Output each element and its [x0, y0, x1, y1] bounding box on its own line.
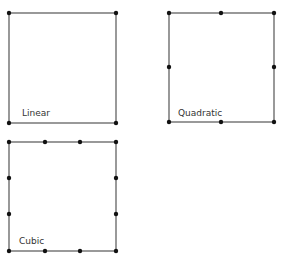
- node-dot: [43, 140, 47, 144]
- node-dot: [7, 140, 11, 144]
- node-dot: [114, 212, 118, 216]
- cubic-label: Cubic: [19, 236, 44, 246]
- node-dot: [167, 120, 171, 124]
- node-dot: [7, 11, 11, 15]
- node-dot: [7, 121, 11, 125]
- node-dot: [272, 11, 276, 15]
- element-boundary: [169, 13, 274, 122]
- node-dot: [114, 11, 118, 15]
- node-dot: [78, 249, 82, 253]
- quadratic-label: Quadratic: [178, 108, 222, 118]
- node-dot: [219, 11, 223, 15]
- node-dot: [114, 249, 118, 253]
- linear-label: Linear: [22, 108, 50, 118]
- element-boundary: [9, 13, 116, 123]
- node-dot: [7, 212, 11, 216]
- element-types-diagram: Linear Quadratic Cubic: [0, 0, 282, 260]
- node-dot: [219, 120, 223, 124]
- node-dot: [167, 65, 171, 69]
- node-dot: [114, 140, 118, 144]
- node-dot: [167, 11, 171, 15]
- node-dot: [43, 249, 47, 253]
- node-dot: [7, 249, 11, 253]
- node-dot: [78, 140, 82, 144]
- element-boundary: [9, 142, 116, 251]
- node-dot: [272, 65, 276, 69]
- node-dot: [272, 120, 276, 124]
- node-dot: [7, 176, 11, 180]
- node-dot: [114, 121, 118, 125]
- node-dot: [114, 176, 118, 180]
